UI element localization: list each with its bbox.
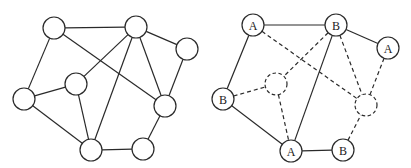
node-label: B bbox=[339, 144, 347, 158]
graph-node bbox=[80, 139, 102, 161]
graph-node bbox=[265, 73, 287, 95]
node-label: A bbox=[249, 19, 258, 33]
edge-n0-n1 bbox=[65, 27, 125, 28]
graph-node: B bbox=[325, 14, 347, 36]
node-circle bbox=[132, 138, 154, 160]
edge-m1-m5 bbox=[340, 35, 362, 94]
edge-n0-n3 bbox=[28, 38, 49, 89]
edge-m1-m2 bbox=[346, 29, 378, 43]
edge-n7-n5 bbox=[148, 116, 160, 139]
labeled-graph: ABABAB bbox=[212, 14, 399, 162]
edge-m1-m4 bbox=[284, 33, 328, 77]
graph-node: B bbox=[332, 139, 354, 161]
graph-node: A bbox=[242, 14, 264, 36]
graph-node: A bbox=[377, 37, 399, 59]
node-layer: ABABAB bbox=[212, 14, 399, 162]
graph-node bbox=[13, 88, 35, 110]
node-label: A bbox=[287, 145, 296, 159]
edge-layer bbox=[227, 25, 384, 151]
node-circle bbox=[176, 38, 198, 60]
edge-n1-n4 bbox=[84, 35, 128, 77]
node-circle bbox=[43, 17, 65, 39]
node-circle bbox=[265, 73, 287, 95]
edge-m3-m4 bbox=[234, 87, 266, 96]
edge-m4-m6 bbox=[278, 95, 288, 141]
graph-node bbox=[132, 138, 154, 160]
edge-m1-m6 bbox=[295, 35, 333, 140]
edge-n4-n6 bbox=[78, 95, 88, 140]
node-label: A bbox=[384, 42, 393, 56]
node-circle bbox=[13, 88, 35, 110]
node-label: B bbox=[332, 19, 340, 33]
graph-node: B bbox=[212, 88, 234, 110]
edge-n3-n4 bbox=[35, 87, 66, 96]
edge-n6-n7 bbox=[102, 149, 132, 150]
edge-m7-m5 bbox=[348, 115, 361, 140]
graph-node bbox=[125, 16, 147, 38]
graph-node: A bbox=[280, 140, 302, 162]
edge-n3-n6 bbox=[33, 106, 82, 144]
edge-layer bbox=[28, 27, 183, 150]
graph-node bbox=[154, 95, 176, 117]
graph-node bbox=[355, 94, 377, 116]
graph-node bbox=[65, 73, 87, 95]
edge-n2-n5 bbox=[169, 59, 183, 95]
node-circle bbox=[65, 73, 87, 95]
node-circle bbox=[80, 139, 102, 161]
edge-n1-n2 bbox=[146, 31, 177, 44]
edge-m6-m7 bbox=[302, 150, 332, 151]
graph-node bbox=[176, 38, 198, 60]
node-layer bbox=[13, 16, 198, 161]
node-circle bbox=[154, 95, 176, 117]
unlabeled-graph bbox=[13, 16, 198, 161]
edge-m0-m3 bbox=[227, 35, 249, 89]
edge-m3-m6 bbox=[232, 106, 283, 145]
edge-n1-n5 bbox=[140, 37, 161, 95]
node-circle bbox=[125, 16, 147, 38]
edge-n1-n6 bbox=[95, 37, 132, 139]
node-circle bbox=[355, 94, 377, 116]
graph-diagram: ABABAB bbox=[0, 0, 411, 168]
graph-node bbox=[43, 17, 65, 39]
node-label: B bbox=[219, 93, 227, 107]
edge-m2-m5 bbox=[370, 58, 384, 94]
